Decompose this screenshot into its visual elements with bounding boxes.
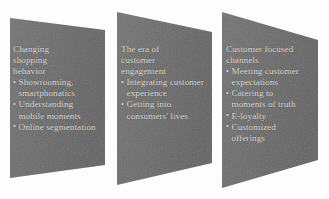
panel-2-grain-dark	[117, 12, 212, 185]
panel-1-grain-dark	[10, 18, 105, 178]
arrow-diagram: Changing shopping behavior •Showrooming,…	[0, 0, 329, 199]
panel-shapes	[0, 0, 329, 199]
panel-3-grain-dark	[222, 12, 318, 188]
